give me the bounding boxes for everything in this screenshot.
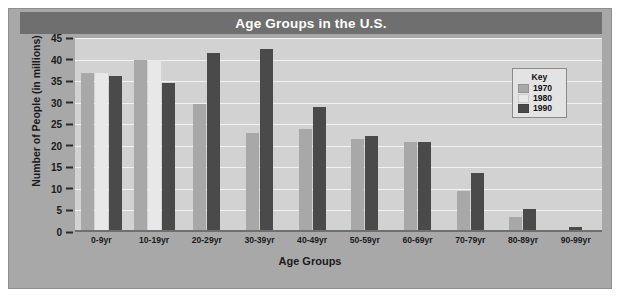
y-axis-tick: 0 (42, 227, 75, 238)
plot-area: 051015202530354045 Key 197019801990 (75, 38, 602, 232)
bar (81, 73, 94, 232)
bar (313, 107, 326, 232)
y-axis-tick-mark (66, 231, 73, 233)
y-axis-tick-mark (66, 59, 73, 61)
y-axis-tick-label: 40 (42, 54, 62, 65)
x-axis-line (75, 230, 602, 232)
y-axis-tick-mark (66, 123, 73, 125)
legend-swatch (518, 84, 529, 93)
bar (134, 60, 147, 232)
x-axis-title: Age Groups (9, 255, 611, 267)
bar (365, 136, 378, 232)
y-axis-tick-mark (66, 166, 73, 168)
y-axis-tick: 30 (42, 97, 75, 108)
x-axis-tick-label: 90-99yr (549, 235, 602, 251)
x-axis-tick-label: 50-59yr (339, 235, 392, 251)
bar (418, 142, 431, 232)
legend-entries: 197019801990 (518, 84, 561, 113)
x-axis-tick-label: 80-89yr (497, 235, 550, 251)
legend-swatch (518, 104, 529, 113)
legend-label: 1990 (533, 104, 552, 113)
bar (351, 139, 364, 232)
legend: Key 197019801990 (512, 68, 567, 118)
y-axis-tick: 15 (42, 162, 75, 173)
y-axis-tick: 35 (42, 76, 75, 87)
y-axis-tick-label: 45 (42, 33, 62, 44)
y-axis-tick: 5 (42, 205, 75, 216)
y-axis-tick: 40 (42, 54, 75, 65)
bar (246, 133, 259, 232)
y-axis-tick: 20 (42, 140, 75, 151)
legend-swatch (518, 94, 529, 103)
bar-group (75, 38, 128, 232)
bar (260, 49, 273, 232)
bar (471, 173, 484, 232)
bar (95, 73, 108, 232)
bar-group (180, 38, 233, 232)
y-axis-tick-label: 5 (42, 205, 62, 216)
legend-label: 1980 (533, 94, 552, 103)
y-axis-tick-label: 35 (42, 76, 62, 87)
bar (207, 53, 220, 232)
x-axis-tick-label: 40-49yr (286, 235, 339, 251)
bar (523, 209, 536, 232)
y-axis-tick-mark (66, 37, 73, 39)
x-axis-tick-label: 20-29yr (180, 235, 233, 251)
y-axis-tick-label: 25 (42, 119, 62, 130)
legend-item: 1980 (518, 94, 561, 103)
legend-item: 1970 (518, 84, 561, 93)
bar-group (391, 38, 444, 232)
chart-title-bar: Age Groups in the U.S. (20, 12, 602, 34)
bar-group (233, 38, 286, 232)
legend-item: 1990 (518, 104, 561, 113)
y-axis-tick-label: 15 (42, 162, 62, 173)
bar (162, 83, 175, 232)
y-axis-tick-label: 20 (42, 140, 62, 151)
chart-screenshot: Age Groups in the U.S. Number of People … (0, 0, 620, 297)
legend-title: Key (518, 72, 561, 82)
x-axis-tick-label: 0-9yr (75, 235, 128, 251)
bar (148, 60, 161, 232)
x-axis-tick-labels: 0-9yr10-19yr20-29yr30-39yr40-49yr50-59yr… (75, 235, 602, 251)
y-axis-tick: 45 (42, 33, 75, 44)
y-axis-tick: 25 (42, 119, 75, 130)
bar (404, 142, 417, 232)
bar-group (339, 38, 392, 232)
bar (299, 129, 312, 232)
y-axis-tick-mark (66, 145, 73, 147)
y-axis-tick-mark (66, 188, 73, 190)
legend-label: 1970 (533, 84, 552, 93)
y-axis-tick-mark (66, 209, 73, 211)
chart-title: Age Groups in the U.S. (235, 16, 386, 31)
bar (193, 104, 206, 232)
y-axis-tick-mark (66, 102, 73, 104)
x-axis-tick-label: 60-69yr (391, 235, 444, 251)
bar-group (444, 38, 497, 232)
bar (457, 191, 470, 232)
y-axis-title: Number of People (in millions) (30, 21, 42, 201)
x-axis-tick-label: 70-79yr (444, 235, 497, 251)
y-axis-tick-label: 10 (42, 183, 62, 194)
x-axis-tick-label: 30-39yr (233, 235, 286, 251)
bar (109, 76, 122, 232)
x-axis-tick-label: 10-19yr (128, 235, 181, 251)
bar-group (286, 38, 339, 232)
y-axis-tick-mark (66, 80, 73, 82)
bar-group (128, 38, 181, 232)
y-axis-tick: 10 (42, 183, 75, 194)
y-axis-tick-label: 0 (42, 227, 62, 238)
chart-figure: Age Groups in the U.S. Number of People … (8, 8, 612, 289)
y-axis-tick-label: 30 (42, 97, 62, 108)
